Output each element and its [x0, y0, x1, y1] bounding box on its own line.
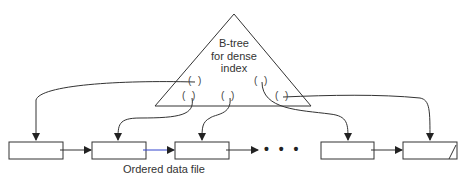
pointer-slot-5: ( ) — [275, 90, 290, 101]
data-file-caption: Ordered data file — [123, 163, 205, 175]
pointer-slot-1: ( ) — [188, 75, 203, 86]
pointer-arrow-3 — [202, 98, 230, 140]
pointer-slot-2: ( ) — [182, 90, 197, 101]
pointer-slot-3: ( ) — [221, 90, 236, 101]
data-block-4 — [321, 142, 374, 159]
data-block-2 — [92, 142, 146, 159]
pointer-arrow-2 — [118, 98, 192, 140]
btree-label-line1: B-tree — [204, 37, 264, 50]
data-block-1 — [9, 142, 63, 159]
pointer-arrow-5 — [283, 95, 430, 140]
ellipsis: • • • — [264, 141, 301, 157]
pointer-arrow-1 — [36, 82, 195, 140]
data-block-3 — [175, 142, 229, 159]
btree-label-line3: index — [204, 62, 264, 75]
btree-label-line2: for dense — [204, 50, 264, 63]
data-block-5 — [403, 142, 457, 159]
pointer-slot-4: ( ) — [254, 75, 269, 86]
null-pointer-slash — [449, 145, 456, 159]
btree-label: B-tree for dense index — [204, 37, 264, 75]
